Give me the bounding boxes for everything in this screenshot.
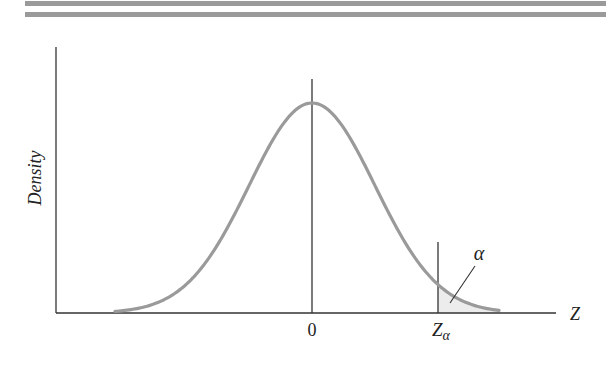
x-tick-z-alpha: Zα (432, 319, 450, 344)
alpha-annotation: α (474, 242, 485, 265)
x-tick-zero: 0 (308, 320, 317, 341)
z-alpha-subscript: α (443, 328, 450, 343)
y-axis-label: Density (25, 151, 46, 206)
alpha-leader-line (450, 266, 475, 303)
z-alpha-main: Z (432, 319, 443, 340)
density-curve (115, 103, 499, 311)
normal-density-plot (0, 0, 606, 367)
x-axis-label: Z (570, 304, 580, 325)
